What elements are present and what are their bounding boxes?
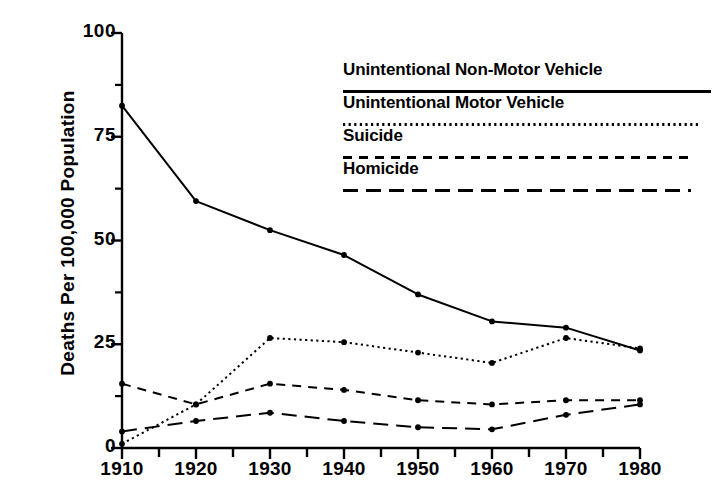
data-point-marker: [637, 402, 643, 408]
data-point-marker: [563, 412, 569, 418]
legend-entry: Unintentional Non-Motor Vehicle: [343, 60, 711, 93]
x-axis-tick-label: 1970: [526, 458, 606, 480]
y-axis-tick-label: 50: [60, 228, 116, 250]
data-point-marker: [119, 381, 125, 387]
y-axis-tick-label: 25: [60, 331, 116, 353]
data-point-marker: [193, 402, 199, 408]
data-point-marker: [267, 410, 273, 416]
legend-label: Suicide: [343, 126, 403, 146]
legend-entry: Homicide: [343, 159, 711, 192]
data-point-marker: [415, 292, 421, 298]
y-axis-tick-label: 75: [60, 124, 116, 146]
legend-label: Unintentional Motor Vehicle: [343, 93, 564, 113]
data-point-marker: [193, 418, 199, 424]
x-axis-tick-label: 1980: [600, 458, 680, 480]
x-axis-tick-labels: 19101920193019401950196019701980: [0, 458, 717, 488]
legend-label: Homicide: [343, 159, 419, 179]
chart-legend: Unintentional Non-Motor VehicleUnintenti…: [343, 60, 711, 192]
legend-label: Unintentional Non-Motor Vehicle: [343, 60, 602, 80]
data-point-marker: [489, 319, 495, 325]
data-point-marker: [267, 335, 273, 341]
data-point-marker: [193, 198, 199, 204]
data-point-marker: [341, 252, 347, 258]
data-point-marker: [489, 360, 495, 366]
data-point-marker: [415, 350, 421, 356]
legend-entry: Suicide: [343, 126, 711, 159]
y-axis-tick-labels: 0255075100: [52, 0, 116, 503]
x-axis-tick-label: 1930: [230, 458, 310, 480]
legend-entry: Unintentional Motor Vehicle: [343, 93, 711, 126]
x-axis-tick-label: 1940: [304, 458, 384, 480]
x-axis-tick-label: 1920: [156, 458, 236, 480]
x-axis-tick-label: 1910: [82, 458, 162, 480]
series-line: [122, 384, 640, 405]
series-line: [122, 338, 640, 444]
data-point-marker: [563, 335, 569, 341]
data-point-marker: [341, 339, 347, 345]
data-point-marker: [415, 397, 421, 403]
data-point-marker: [267, 227, 273, 233]
data-point-marker: [267, 381, 273, 387]
data-point-marker: [563, 397, 569, 403]
data-point-marker: [119, 429, 125, 435]
data-point-marker: [341, 418, 347, 424]
x-axis-tick-label: 1960: [452, 458, 532, 480]
data-point-marker: [119, 103, 125, 109]
data-point-marker: [341, 387, 347, 393]
x-axis-tick-label: 1950: [378, 458, 458, 480]
series-2: [119, 335, 643, 447]
chart-figure: Deaths Per 100,000 Population 0255075100…: [0, 0, 717, 503]
y-axis-tick-label: 0: [60, 435, 116, 457]
y-axis-tick-label: 100: [60, 20, 116, 42]
series-3: [119, 381, 643, 408]
data-point-marker: [489, 426, 495, 432]
data-point-marker: [563, 325, 569, 331]
series-line: [122, 404, 640, 431]
data-point-marker: [637, 346, 643, 352]
data-point-marker: [119, 441, 125, 447]
data-point-marker: [489, 402, 495, 408]
data-point-marker: [415, 424, 421, 430]
